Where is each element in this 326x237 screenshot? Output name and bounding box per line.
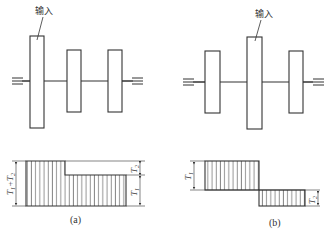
torque-label-t2-a: T2 [129,165,140,173]
bearing-icon-left-b [183,79,205,85]
torque-label-t1-a: T1 [129,188,140,196]
torque-label-t1-b: T1 [183,172,194,180]
torque-diagram-b: T1 T2 [183,161,320,206]
torque-label-t2-b: T2 [307,196,318,204]
gear-output-a1 [67,50,81,112]
gear-input-a [30,36,44,128]
bearing-icon-left-a [12,78,30,84]
bearing-icon-right-b [303,79,324,85]
gear-output-b2 [289,51,303,113]
panel-b: 输入 T1 T2 (b) [183,8,324,229]
caption-b: (b) [269,217,281,229]
input-label-b: 输入 [255,8,273,19]
gear-output-b1 [205,51,220,113]
caption-a: (a) [70,214,81,226]
torque-label-t1t2-a: T1+T2 [5,173,16,195]
input-label-a: 输入 [35,5,53,16]
torque-diagram-a: T1+T2 T2 T1 [5,161,145,206]
gear-output-a2 [108,50,122,112]
panel-a: 输入 T1+T2 T2 T1 (a) [5,5,145,226]
gear-input-b [247,37,262,129]
gear-shaft-torque-diagram: 输入 T1+T2 T2 T1 (a) [0,0,326,237]
bearing-icon-right-a [122,78,143,84]
